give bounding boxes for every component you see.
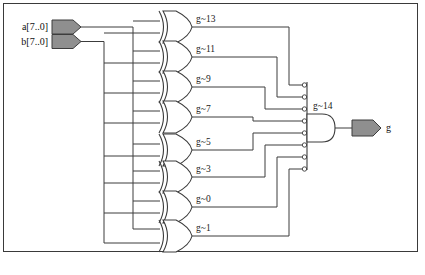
output-port-g[interactable] xyxy=(352,120,381,136)
xor-gate-g7-label: g~7 xyxy=(196,104,211,114)
and-input-bubble-7 xyxy=(302,167,306,171)
and-input-bubble-6 xyxy=(302,155,306,159)
and-input-bubble-2 xyxy=(302,107,306,111)
input-port-a-label: a[7..0] xyxy=(22,21,48,32)
xor-gate-g11[interactable] xyxy=(159,41,192,73)
schematic-canvas: a[7..0] b[7..0] xyxy=(0,0,425,275)
xor-gate-g1-label: g~1 xyxy=(196,223,211,233)
xor-gate-g3-label: g~3 xyxy=(196,164,211,174)
and-input-bubble-5 xyxy=(302,143,306,147)
input-port-b[interactable] xyxy=(52,35,81,49)
input-port-b-label: b[7..0] xyxy=(21,36,48,47)
xor-gate-g5-label: g~5 xyxy=(196,137,211,147)
xor-gate-g13-label: g~13 xyxy=(196,14,216,24)
xor-gate-g11-label: g~11 xyxy=(196,44,215,54)
and-gate-g14[interactable] xyxy=(307,82,335,170)
and-input-bubble-3 xyxy=(302,119,306,123)
and-input-bubble-0 xyxy=(302,83,306,87)
xor-gate-g0-label: g~0 xyxy=(196,194,211,204)
xor-gate-g13[interactable] xyxy=(159,11,192,43)
and-gate-g14-label: g~14 xyxy=(313,101,333,111)
and-input-bubble-4 xyxy=(302,131,306,135)
xor-gate-g9-label: g~9 xyxy=(196,74,211,84)
wire-g7-to-and xyxy=(192,117,303,121)
and-input-bubble-1 xyxy=(302,95,306,99)
output-port-g-label: g xyxy=(386,122,391,133)
xor-gate-g0[interactable] xyxy=(159,191,192,223)
xor-gate-g1[interactable] xyxy=(159,220,192,252)
input-port-a[interactable] xyxy=(52,20,81,34)
xor-gate-g7[interactable] xyxy=(159,101,192,133)
xor-gate-g9[interactable] xyxy=(159,71,192,103)
